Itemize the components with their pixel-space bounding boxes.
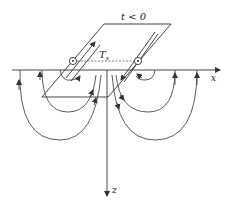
current-marker-right	[134, 57, 141, 64]
current-marker-left	[69, 57, 76, 64]
diagram-canvas: t < 0 Tx x z	[0, 0, 231, 206]
field-lines-left	[19, 70, 101, 140]
time-label: t < 0	[121, 11, 147, 22]
loop-wires	[66, 32, 158, 82]
x-axis-label: x	[211, 73, 216, 83]
transmitter-label: Tx	[99, 49, 110, 61]
z-axis-label: z	[111, 185, 117, 195]
